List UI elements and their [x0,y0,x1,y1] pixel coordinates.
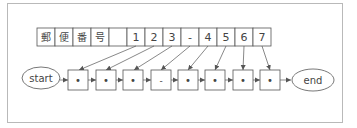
start-label: start [29,73,52,84]
node-symbol: • [75,75,81,86]
cell-text: 6 [241,31,248,44]
cell-12: 7 [253,28,271,46]
link-arrow [262,46,270,70]
cell-3: 号 [91,28,109,46]
node-symbol: • [212,75,218,86]
start-node: start [22,67,60,89]
cell-text: 4 [205,31,212,44]
node-symbol: • [240,75,246,86]
end-label: end [304,75,323,86]
state-node-1: • [68,70,88,90]
link-arrow [243,46,244,70]
node-symbol: • [267,75,273,86]
cell-1: 便 [55,28,73,46]
cell-2: 番 [73,28,91,46]
cell-text: 号 [95,32,105,43]
cell-0: 郵 [37,28,55,46]
postal-code-cells: 郵 便 番 号 1 2 3 - 4 5 6 7 [37,28,271,46]
link-arrow [215,46,226,70]
cell-text: 郵 [41,32,51,43]
link-arrow [106,46,154,70]
cell-4 [109,28,127,46]
node-symbol: • [130,75,136,86]
cell-text: 便 [59,31,69,43]
end-node: end [292,69,334,91]
cell-text: 2 [151,31,158,44]
node-symbol: • [185,75,191,86]
cell-text: 3 [169,31,176,44]
cell-5: 1 [127,28,145,46]
cell-6: 2 [145,28,163,46]
state-node-7: • [233,70,253,90]
cell-8: - [181,28,199,46]
link-arrow [134,46,172,70]
cell-11: 6 [235,28,253,46]
state-node-6: • [205,70,225,90]
state-node-2: • [96,70,116,90]
cell-text: 7 [259,31,266,44]
cell-text: 1 [133,31,140,44]
postal-code-automaton-diagram: 郵 便 番 号 1 2 3 - 4 5 6 7 start [0,0,357,128]
state-node-3: • [123,70,143,90]
state-node-8: • [260,70,280,90]
cell-9: 4 [199,28,217,46]
cell-10: 5 [217,28,235,46]
cell-text: 5 [223,31,230,44]
node-symbol: - [159,76,162,86]
state-node-4: - [151,70,171,90]
cell-7: 3 [163,28,181,46]
link-arrow [79,46,136,70]
cell-text: 番 [77,32,87,43]
state-node-5: • [178,70,198,90]
node-symbol: • [103,75,109,86]
link-arrow [161,46,190,70]
cell-text: - [188,31,192,44]
link-arrow [188,46,208,70]
link-arrows [79,46,270,70]
